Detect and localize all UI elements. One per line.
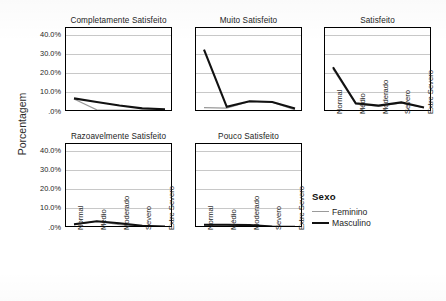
plot-area	[195, 27, 302, 111]
legend-items: FemininoMasculino	[312, 206, 371, 228]
top-artifact-text	[0, 0, 446, 9]
legend-item-label: Feminino	[332, 207, 367, 217]
legend: Sexo FemininoMasculino	[312, 191, 371, 228]
y-tick-label: 40.0%	[25, 146, 61, 155]
series-line	[204, 50, 295, 109]
y-tick-label: .0%	[25, 107, 61, 116]
x-tick-label: Médio	[99, 209, 108, 230]
facet-series-lines	[66, 28, 172, 111]
legend-line-swatch-icon	[312, 222, 329, 224]
y-tick-label: 20.0%	[25, 184, 61, 193]
legend-item[interactable]: Feminino	[312, 206, 371, 217]
plot-area	[65, 27, 172, 111]
facet-title: Pouco Satisfeito	[195, 132, 302, 141]
chart-canvas: Porcentagem .0%.0%10.0%10.0%20.0%20.0%30…	[0, 0, 446, 301]
facet-panel: Completamente Satisfeito	[65, 16, 172, 111]
x-tick-label: Severo	[144, 206, 153, 230]
x-tick-label: Extre Severo	[167, 186, 176, 230]
facet-title: Completamente Satisfeito	[65, 16, 172, 25]
y-tick-label: 40.0%	[25, 30, 61, 39]
facet-series-lines	[196, 28, 302, 111]
legend-item-label: Masculino	[332, 218, 371, 228]
y-tick-label: 10.0%	[25, 87, 61, 96]
facet-title: Satisfeito	[324, 16, 431, 25]
x-tick-label: Moderado	[252, 196, 261, 230]
x-tick-label: Moderado	[381, 80, 390, 114]
x-tick-label: Normal	[76, 206, 85, 230]
y-tick-label: 30.0%	[25, 49, 61, 58]
series-line	[74, 98, 165, 109]
x-tick-label: Severo	[274, 206, 283, 230]
x-tick-label: Médio	[358, 93, 367, 114]
y-tick-label: 10.0%	[25, 203, 61, 212]
y-tick-label: .0%	[25, 223, 61, 232]
y-tick-label: 20.0%	[25, 68, 61, 77]
legend-line-swatch-icon	[312, 211, 329, 212]
legend-item[interactable]: Masculino	[312, 217, 371, 228]
y-tick-label: 30.0%	[25, 165, 61, 174]
legend-title: Sexo	[312, 191, 371, 202]
x-tick-label: Extre Severo	[297, 186, 306, 230]
facet-title: Razoavelmente Satisfeito	[65, 132, 172, 141]
facet-title: Muito Satisfeito	[195, 16, 302, 25]
x-tick-label: Normal	[335, 90, 344, 114]
x-tick-label: Normal	[206, 206, 215, 230]
facet-panel: Muito Satisfeito	[195, 16, 302, 111]
x-tick-label: Severo	[403, 90, 412, 114]
x-tick-label: Moderado	[122, 196, 131, 230]
x-tick-label: Extre Severo	[426, 70, 435, 114]
x-tick-label: Médio	[229, 209, 238, 230]
